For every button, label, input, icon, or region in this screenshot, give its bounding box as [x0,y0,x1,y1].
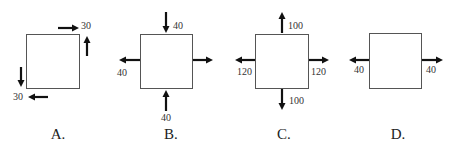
force-label-bottom: 40 [161,112,171,123]
force-label-right: 120 [311,66,326,77]
arrow-right-icon [58,25,79,32]
arrow-left-icon [349,57,369,64]
arrow-up-icon [279,12,286,33]
diagram-c: 100 120 120 100 C. [235,12,329,142]
force-label-left: 120 [237,66,252,77]
force-label-bottom: 30 [13,91,23,102]
arrow-left-icon [235,57,255,64]
arrow-right-icon [422,57,443,64]
arrow-down-icon [163,12,170,33]
element-square-c [256,35,309,89]
arrow-right-icon [309,57,329,64]
force-label-bottom: 100 [289,95,304,106]
force-label-top: 100 [288,20,303,31]
arrow-left-icon [119,57,140,64]
arrow-down-icon [279,89,286,110]
caption-c: C. [277,126,291,142]
force-label-right: 40 [426,64,436,75]
caption-b: B. [164,126,178,142]
diagram-d: 40 40 D. [349,34,443,143]
arrow-right-icon [193,57,213,64]
force-label-left: 40 [354,64,364,75]
diagram-a: 30 30 A. [13,20,91,142]
force-label-left: 40 [117,67,127,78]
element-square-d [370,34,422,89]
element-square-a [27,35,80,89]
caption-a: A. [51,126,66,142]
element-square-b [141,35,193,89]
arrow-left-icon [28,94,48,101]
diagram-b: 40 40 40 B. [117,12,213,142]
force-label-top: 40 [173,20,183,31]
caption-d: D. [391,126,406,142]
arrow-up-icon [163,90,170,111]
arrow-up-icon [84,36,91,56]
stress-element-diagrams: 30 30 A. 40 40 [0,0,453,146]
force-label-top: 30 [81,20,91,31]
arrow-down-icon [18,67,25,87]
